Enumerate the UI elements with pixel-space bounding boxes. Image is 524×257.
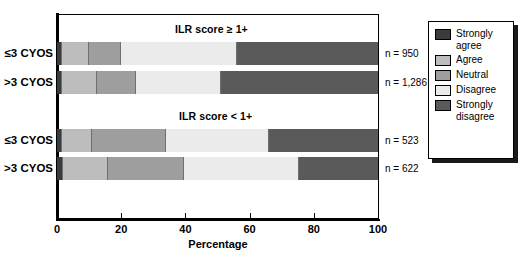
bar-segment-disagree bbox=[184, 157, 300, 180]
n-label-bar-4: n = 622 bbox=[385, 163, 419, 174]
n-label-bar-3: n = 523 bbox=[385, 135, 419, 146]
legend-swatch-icon bbox=[435, 100, 451, 111]
x-axis-tick bbox=[57, 213, 58, 219]
bar-segment-agree bbox=[63, 157, 108, 180]
x-axis-line bbox=[56, 219, 380, 221]
legend-label: Neutral bbox=[456, 69, 488, 81]
bar-segment-agree bbox=[62, 42, 89, 65]
x-axis-tick bbox=[185, 213, 186, 219]
panel-title-bottom: ILR score < 1+ bbox=[179, 110, 252, 122]
stacked-bar-row bbox=[57, 42, 378, 65]
bar-segment-strongly-disagree bbox=[269, 129, 378, 152]
legend-item[interactable]: Strongly agree bbox=[435, 28, 508, 51]
category-label-bar-1: ≤3 CYOS bbox=[1, 47, 53, 59]
x-axis-tick-label: 20 bbox=[115, 223, 127, 235]
n-label-bar-1: n = 950 bbox=[385, 48, 419, 59]
legend-item[interactable]: Strongly disagree bbox=[435, 99, 508, 122]
n-label-bar-2: n = 1,286 bbox=[385, 77, 427, 88]
legend-swatch-icon bbox=[435, 85, 451, 96]
legend-label: Strongly disagree bbox=[456, 99, 508, 122]
legend-label: Disagree bbox=[456, 84, 496, 96]
panel-title-top: ILR score ≥ 1+ bbox=[175, 23, 248, 35]
category-label-bar-4: >3 CYOS bbox=[1, 162, 53, 174]
legend-swatch-icon bbox=[435, 55, 451, 66]
legend-item[interactable]: Neutral bbox=[435, 69, 508, 81]
bar-segment-neutral bbox=[89, 42, 121, 65]
chart-root: ILR score ≥ 1+ ILR score < 1+ ≤3 CYOS >3… bbox=[0, 0, 524, 257]
legend-label: Agree bbox=[456, 54, 483, 66]
x-axis-tick bbox=[314, 213, 315, 219]
stacked-bar-row bbox=[57, 71, 378, 94]
bar-segment-disagree bbox=[121, 42, 237, 65]
legend-swatch-icon bbox=[435, 29, 451, 40]
bar-segment-neutral bbox=[92, 129, 166, 152]
bar-segment-strongly-disagree bbox=[221, 71, 378, 94]
x-axis-tick-label: 80 bbox=[308, 223, 320, 235]
stacked-bar-row bbox=[57, 129, 378, 152]
legend-item[interactable]: Agree bbox=[435, 54, 508, 66]
bar-segment-disagree bbox=[136, 71, 221, 94]
legend: Strongly agreeAgreeNeutralDisagreeStrong… bbox=[428, 21, 514, 159]
x-axis-tick-label: 0 bbox=[54, 223, 60, 235]
legend-item[interactable]: Disagree bbox=[435, 84, 508, 96]
x-axis-tick bbox=[378, 213, 379, 219]
bar-segment-agree bbox=[62, 71, 97, 94]
bar-segment-neutral bbox=[108, 157, 183, 180]
bar-segment-agree bbox=[62, 129, 92, 152]
bar-segment-neutral bbox=[97, 71, 136, 94]
x-axis-tick-label: 60 bbox=[243, 223, 255, 235]
category-label-bar-2: >3 CYOS bbox=[1, 76, 53, 88]
legend-swatch-icon bbox=[435, 70, 451, 81]
x-axis-title: Percentage bbox=[57, 238, 379, 250]
stacked-bar-row bbox=[57, 157, 378, 180]
bar-segment-strongly-disagree bbox=[237, 42, 378, 65]
bar-segment-disagree bbox=[166, 129, 269, 152]
category-label-bar-3: ≤3 CYOS bbox=[1, 134, 53, 146]
bar-segment-strongly-disagree bbox=[299, 157, 378, 180]
x-axis-tick bbox=[121, 213, 122, 219]
legend-label: Strongly agree bbox=[456, 28, 508, 51]
x-axis-tick bbox=[250, 213, 251, 219]
x-axis-tick-label: 100 bbox=[369, 223, 387, 235]
x-axis-tick-label: 40 bbox=[179, 223, 191, 235]
